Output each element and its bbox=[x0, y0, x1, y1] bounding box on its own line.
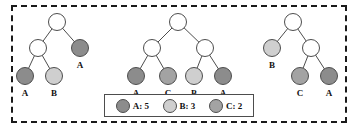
legend-entry-b: B: 3 bbox=[163, 99, 196, 113]
legend-entry-a: A: 5 bbox=[116, 99, 149, 113]
tree3-leaf-node-c1 bbox=[291, 67, 309, 85]
tree1-root-node bbox=[48, 13, 66, 31]
legend-label-b: B: 3 bbox=[180, 101, 196, 111]
tree2-leaf-node-a2 bbox=[214, 67, 232, 85]
tree2-internal-node-right bbox=[196, 39, 214, 57]
tree1-leaf-label-b1: B bbox=[51, 88, 57, 98]
tree3-leaf-label-a1: A bbox=[326, 88, 333, 98]
tree3-internal-node bbox=[302, 39, 320, 57]
tree2-root-node bbox=[169, 13, 187, 31]
tree2-internal-node-left bbox=[143, 39, 161, 57]
tree3-leaf-label-b1: B bbox=[269, 60, 275, 70]
tree3-leaf-node-a1 bbox=[320, 67, 338, 85]
tree1-leaf-node-a1 bbox=[16, 67, 34, 85]
tree1-leaf-label-a1: A bbox=[22, 88, 29, 98]
tree1-leaf-node-a2 bbox=[71, 39, 89, 57]
legend-swatch-c-icon bbox=[209, 99, 223, 113]
tree2-leaf-node-a1 bbox=[127, 67, 145, 85]
tree2-leaf-node-c1 bbox=[159, 67, 177, 85]
tree1-internal-node bbox=[29, 39, 47, 57]
legend-box: A: 5 B: 3 C: 2 bbox=[104, 94, 254, 117]
legend-label-a: A: 5 bbox=[133, 101, 149, 111]
tree3-leaf-label-c1: C bbox=[297, 88, 304, 98]
figure-canvas: A A B A C B A B C A A: 5 B: 3 bbox=[0, 0, 360, 133]
legend-label-c: C: 2 bbox=[226, 101, 242, 111]
legend-swatch-b-icon bbox=[163, 99, 177, 113]
legend-swatch-a-icon bbox=[116, 99, 130, 113]
tree2-leaf-node-b1 bbox=[185, 67, 203, 85]
tree3-root-node bbox=[284, 13, 302, 31]
tree1-leaf-node-b1 bbox=[45, 67, 63, 85]
tree1-leaf-label-a2: A bbox=[77, 60, 84, 70]
legend-entry-c: C: 2 bbox=[209, 99, 242, 113]
tree3-leaf-node-b1 bbox=[263, 39, 281, 57]
